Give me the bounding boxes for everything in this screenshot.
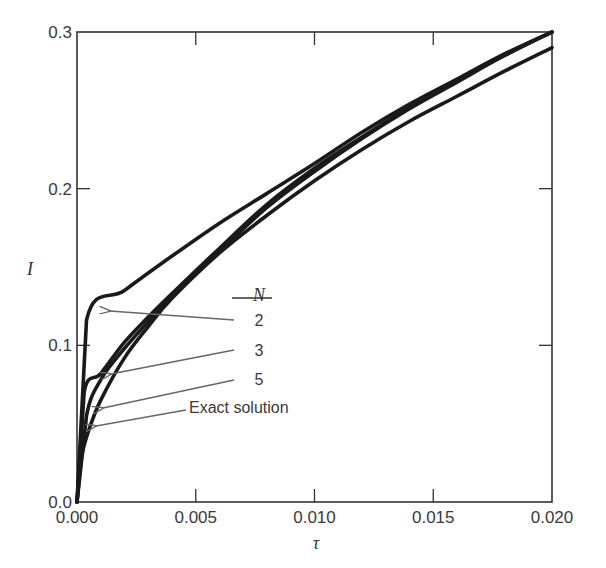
legend-title: N [252, 285, 266, 305]
plot-frame [77, 32, 552, 502]
chart: 0.0000.0050.0100.0150.0200.00.10.20.3 N2… [0, 0, 606, 568]
legend-label: Exact solution [189, 399, 289, 416]
x-tick-label: 0.020 [531, 508, 574, 527]
curve-n5 [77, 32, 552, 502]
x-tick-label: 0.005 [174, 508, 217, 527]
x-tick-label: 0.015 [412, 508, 455, 527]
legend-entry-n2: 2 [110, 311, 264, 329]
curve-n2 [77, 32, 552, 502]
y-tick-label: 0.1 [48, 336, 72, 355]
y-tick-label: 0.2 [48, 180, 72, 199]
y-axis-title: I [26, 259, 34, 279]
legend-label: 3 [255, 342, 264, 359]
y-tick-label: 0.0 [48, 493, 72, 512]
legend-arrow [110, 311, 234, 320]
legend-label: 2 [255, 312, 264, 329]
x-axis-title: τ [313, 533, 320, 553]
legend-label: 5 [255, 371, 264, 388]
x-tick-label: 0.010 [293, 508, 336, 527]
curves [77, 32, 552, 502]
y-tick-label: 0.3 [48, 23, 72, 42]
curve-n3 [77, 32, 552, 502]
axis-ticks: 0.0000.0050.0100.0150.0200.00.10.20.3 [48, 23, 573, 527]
plot-border [77, 32, 552, 502]
legend-arrow [96, 410, 186, 426]
